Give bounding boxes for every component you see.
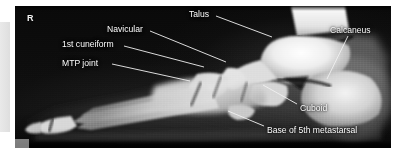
- page-margin-strip: [0, 22, 10, 132]
- annotation-label-navicular: Navicular: [107, 25, 143, 34]
- film-corner-artifact: [15, 139, 29, 148]
- annotation-label-talus: Talus: [189, 10, 209, 19]
- annotation-label-base-5th-metatarsal: Base of 5th metastarsal: [267, 126, 357, 135]
- annotation-label-cuboid: Cuboid: [300, 104, 327, 113]
- annotation-label-calcaneus: Calcaneus: [330, 26, 371, 35]
- side-marker-r: R: [27, 13, 34, 23]
- annotation-label-first-cuneiform: 1st cuneiform: [62, 40, 114, 49]
- annotation-label-mtp-joint: MTP joint: [62, 59, 98, 68]
- film-bottom-edge: [15, 141, 391, 148]
